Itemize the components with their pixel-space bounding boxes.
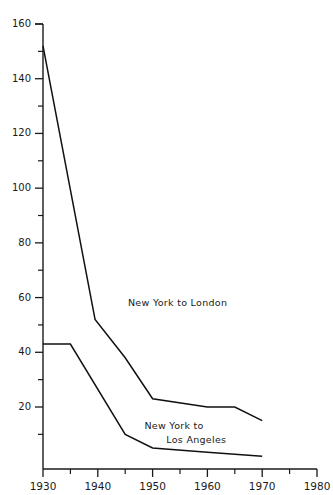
x-axis: 193019401950196019701980 [30, 469, 331, 492]
series-annotation-label: Los Angeles [166, 434, 226, 445]
y-tick-label: 120 [12, 127, 31, 138]
series-line [43, 344, 262, 456]
x-tick-label: 1970 [249, 480, 276, 492]
y-tick-label: 100 [12, 182, 31, 193]
series-lines [43, 46, 262, 456]
series-line [43, 46, 262, 421]
x-tick-label: 1930 [30, 480, 57, 492]
series-annotation-label: New York to London [128, 297, 227, 308]
x-tick-label: 1960 [194, 480, 221, 492]
x-tick-label: 1950 [139, 480, 166, 492]
x-tick-label: 1940 [84, 480, 111, 492]
y-tick-label: 160 [12, 18, 31, 29]
series-annotation-label: New York to [144, 420, 203, 431]
y-tick-label: 80 [18, 237, 31, 248]
x-tick-label: 1980 [304, 480, 331, 492]
line-chart: 20406080100120140160 1930194019501960197… [0, 0, 333, 495]
y-tick-label: 140 [12, 73, 31, 84]
y-tick-label: 40 [18, 346, 31, 357]
y-axis: 20406080100120140160 [12, 18, 43, 469]
series-annotations: New York to LondonNew York toLos Angeles [128, 297, 227, 445]
chart-canvas: 20406080100120140160 1930194019501960197… [0, 0, 333, 495]
y-tick-label: 60 [18, 292, 31, 303]
y-tick-label: 20 [18, 401, 31, 412]
